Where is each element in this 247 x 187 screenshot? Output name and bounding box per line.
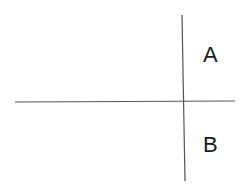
horizontal-line bbox=[15, 101, 235, 102]
label-a: A bbox=[203, 44, 218, 66]
diagram-lines bbox=[0, 0, 247, 187]
label-b: B bbox=[203, 134, 218, 156]
vertical-line bbox=[182, 15, 185, 181]
diagram-canvas: A B bbox=[0, 0, 247, 187]
